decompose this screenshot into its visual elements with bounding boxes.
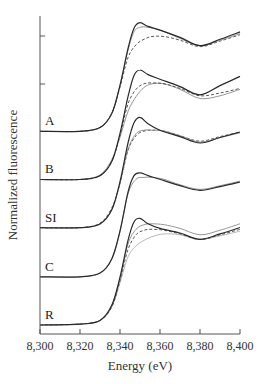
panel-label-si: SI bbox=[45, 210, 57, 225]
panel-label-r: R bbox=[45, 307, 54, 322]
spectrum-line-solid-dark bbox=[40, 23, 240, 132]
panel-labels: ABSICR bbox=[45, 113, 57, 322]
y-axis-title: Normalized fluorescence bbox=[5, 110, 20, 241]
plot-area bbox=[40, 23, 240, 325]
x-ticks: 8,3008,3208,3408,3608,3808,400 bbox=[27, 329, 254, 353]
spectrum-line-solid-gray bbox=[40, 130, 240, 228]
x-tick-label: 8,340 bbox=[107, 339, 134, 353]
xanes-chart: 8,3008,3208,3408,3608,3808,400 ABSICR En… bbox=[0, 0, 265, 384]
panel-label-c: C bbox=[45, 259, 54, 274]
spectrum-line-solid-light bbox=[40, 231, 240, 325]
spectrum-line-solid-gray bbox=[40, 177, 240, 277]
panel-label-b: B bbox=[45, 161, 54, 176]
x-tick-label: 8,380 bbox=[187, 339, 214, 353]
spectrum-line-solid-dark bbox=[40, 70, 240, 180]
x-tick-label: 8,400 bbox=[227, 339, 254, 353]
x-tick-label: 8,320 bbox=[67, 339, 94, 353]
spectrum-b bbox=[40, 70, 240, 180]
spectrum-line-solid-gray bbox=[40, 27, 240, 132]
x-tick-label: 8,300 bbox=[27, 339, 54, 353]
spectrum-line-solid-gray bbox=[40, 224, 240, 325]
spectrum-r bbox=[40, 218, 240, 325]
x-axis-title: Energy (eV) bbox=[108, 358, 172, 373]
spectrum-line-solid-dark bbox=[40, 173, 240, 277]
panel-label-a: A bbox=[45, 113, 55, 128]
spectrum-line-solid-dark bbox=[40, 218, 240, 325]
spectrum-a bbox=[40, 23, 240, 132]
x-tick-label: 8,360 bbox=[147, 339, 174, 353]
spectrum-c bbox=[40, 173, 240, 277]
spectrum-line-dashed bbox=[40, 130, 240, 228]
